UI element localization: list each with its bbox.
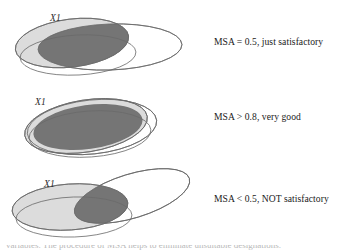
venn-row-1 [13,12,183,78]
row3-x1-label: X1 [44,180,55,190]
bottom-caption-sliver: variables. The procedure of MSA helps to… [6,245,346,251]
row2-caption: MSA > 0.8, very good [214,112,301,122]
row2-x1-label: X1 [35,98,46,108]
row1-caption: MSA = 0.5, just satisfactory [214,37,323,47]
figure-root: X1 X1 X1 MSA = 0.5, just satisfactory MS… [0,0,353,251]
row3-caption: MSA < 0.5, NOT satisfactory [214,194,329,204]
row1-x1-label: X1 [50,14,61,24]
bottom-caption-text: variables. The procedure of MSA helps to… [6,245,281,250]
venn-row-3 [11,157,196,239]
